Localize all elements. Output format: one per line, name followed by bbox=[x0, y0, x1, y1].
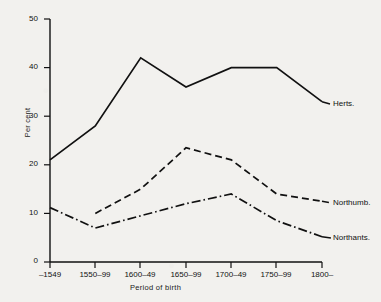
chart-canvas bbox=[0, 0, 381, 302]
northumb-label-leader bbox=[322, 201, 331, 203]
series-line-herts bbox=[50, 58, 322, 160]
series-label-northumb: Northumb. bbox=[333, 198, 370, 207]
xtick-label-5: 1750–99 bbox=[250, 270, 302, 279]
series-label-northants: Northants. bbox=[333, 233, 370, 242]
chart-figure: 50 40 30 20 10 0 Per cent –1549 1550–99 … bbox=[0, 0, 381, 302]
xtick-label-2: 1600–49 bbox=[114, 270, 166, 279]
x-axis-title: Period of birth bbox=[130, 283, 181, 292]
x-axis-ticks bbox=[50, 262, 322, 268]
y-axis-title: Per cent bbox=[23, 93, 32, 153]
series-line-northumb bbox=[95, 148, 322, 214]
northants-label-leader bbox=[322, 237, 331, 238]
herts-label-leader bbox=[322, 102, 330, 104]
ytick-label-0: 0 bbox=[12, 256, 38, 265]
xtick-label-6: 1800– bbox=[300, 270, 344, 279]
ytick-label-50: 50 bbox=[12, 14, 38, 23]
ytick-label-10: 10 bbox=[12, 208, 38, 217]
xtick-label-0: –1549 bbox=[27, 270, 73, 279]
ytick-label-40: 40 bbox=[12, 62, 38, 71]
ytick-label-20: 20 bbox=[12, 159, 38, 168]
series-label-herts: Herts. bbox=[333, 99, 354, 108]
series-line-northants bbox=[50, 194, 322, 237]
y-axis-ticks bbox=[44, 19, 50, 262]
